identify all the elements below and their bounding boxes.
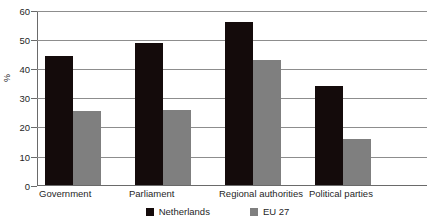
bar-eu27 (163, 110, 191, 185)
category-label-government: Government (37, 188, 127, 202)
category-label-parliament: Parliament (127, 188, 217, 202)
y-tick-label: 30 (6, 93, 30, 104)
bar-group-parliament (127, 11, 217, 185)
bar-groups (37, 11, 427, 185)
y-tick-label: 50 (6, 35, 30, 46)
bar-group-regional-authorities (217, 11, 307, 185)
bar-group-government (37, 11, 127, 185)
y-tick-label: 10 (6, 151, 30, 162)
x-axis-baseline (37, 185, 427, 186)
legend-label: EU 27 (263, 206, 289, 217)
y-tick-label: 60 (6, 6, 30, 17)
bar-chart: % 60 50 40 30 20 10 0 (0, 0, 435, 224)
legend-item-netherlands: Netherlands (146, 206, 210, 217)
bar-netherlands (315, 86, 343, 185)
legend-swatch-icon (146, 208, 154, 216)
bar-netherlands (225, 22, 253, 185)
legend-label: Netherlands (159, 206, 210, 217)
chart-legend: Netherlands EU 27 (0, 206, 435, 217)
y-axis-tick-labels: 60 50 40 30 20 10 0 (0, 0, 30, 224)
y-tick-label: 40 (6, 64, 30, 75)
legend-item-eu27: EU 27 (250, 206, 289, 217)
bar-eu27 (73, 111, 101, 185)
bar-eu27 (253, 60, 281, 185)
y-tick-label: 20 (6, 122, 30, 133)
x-axis-category-labels: Government Parliament Regional authoriti… (37, 188, 427, 202)
y-tick-label: 0 (6, 180, 30, 191)
clipped-title-sliver (214, 0, 414, 3)
bar-eu27 (343, 139, 371, 185)
legend-swatch-icon (250, 208, 258, 216)
bar-netherlands (135, 43, 163, 185)
bar-netherlands (45, 56, 73, 185)
bar-group-political-parties (307, 11, 397, 185)
category-label-political-parties: Political parties (307, 188, 397, 202)
category-label-regional-authorities: Regional authorities (217, 188, 307, 202)
